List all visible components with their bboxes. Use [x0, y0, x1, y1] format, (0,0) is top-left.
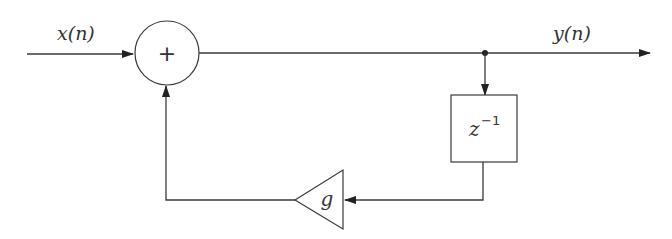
delay-block: z −1 [451, 95, 517, 162]
gain-block: g [295, 170, 343, 229]
delay-label-exponent: −1 [481, 113, 500, 128]
feedback-path [166, 86, 295, 200]
block-diagram: x(n) + y(n) z −1 g [0, 0, 672, 239]
adder-block: + [135, 21, 199, 85]
delay-to-gain-path [345, 162, 483, 200]
output-label: y(n) [552, 22, 591, 44]
delay-box [451, 95, 517, 162]
output-signal: y(n) [199, 22, 650, 56]
delay-label-base: z [468, 117, 480, 141]
input-signal: x(n) [27, 22, 133, 54]
input-label: x(n) [57, 22, 95, 44]
gain-label: g [321, 187, 334, 211]
gain-triangle [295, 170, 343, 229]
plus-icon: + [158, 41, 176, 66]
